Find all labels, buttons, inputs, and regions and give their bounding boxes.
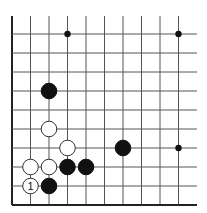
star-point-icon [175,145,181,151]
black-stone [60,159,76,175]
black-stone [41,83,57,99]
star-point-icon [175,31,181,37]
black-stone [115,140,131,156]
board-grid [12,16,197,205]
stones: 1 [23,83,131,194]
white-stone [60,140,76,156]
go-board: 1 [0,0,207,213]
white-stone [41,159,57,175]
white-stone [41,121,57,137]
stone-move-number: 1 [27,180,33,192]
star-point-icon [64,31,70,37]
white-stone [23,159,39,175]
black-stone [78,159,94,175]
black-stone [41,178,57,194]
